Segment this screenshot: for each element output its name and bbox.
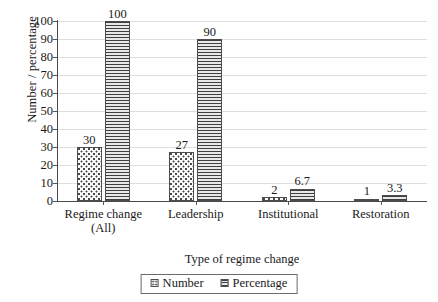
legend-item-percentage[interactable]: Percentage xyxy=(221,277,288,290)
bar-percentage-0: 100 xyxy=(105,21,130,201)
legend-item-label: Percentage xyxy=(233,277,288,290)
y-tick-label: 20 xyxy=(27,159,53,172)
legend-item-number[interactable]: Number xyxy=(151,277,204,290)
y-tick-label: 50 xyxy=(27,105,53,118)
x-category-label-line1: Institutional xyxy=(258,207,318,221)
y-tick-mark xyxy=(53,39,57,40)
striped-swatch-icon xyxy=(221,279,229,287)
y-axis-line xyxy=(57,20,58,201)
bar-number-3: 1 xyxy=(354,199,379,202)
bar-value-label: 1 xyxy=(364,185,370,198)
bar-percentage-3: 3.3 xyxy=(382,195,407,201)
y-tick-label: 10 xyxy=(27,177,53,190)
x-category-label-line1: Regime change xyxy=(65,207,142,221)
y-tick-mark xyxy=(53,165,57,166)
x-tick-mark xyxy=(103,201,104,205)
bar-value-label: 90 xyxy=(204,26,217,39)
y-tick-label: 30 xyxy=(27,141,53,154)
bar-value-label: 3.3 xyxy=(387,182,403,195)
y-tick-label: 100 xyxy=(27,15,53,28)
x-category-label-line1: Restoration xyxy=(352,207,410,221)
dotted-swatch-icon xyxy=(151,279,159,287)
x-tick-mark xyxy=(196,201,197,205)
bar-value-label: 100 xyxy=(108,8,127,21)
x-category-label-line1: Leadership xyxy=(168,207,224,221)
bar-value-label: 30 xyxy=(83,134,96,147)
plot-area: 30100279026.713.3 Regime change(All)Lead… xyxy=(57,21,427,201)
y-tick-label: 40 xyxy=(27,123,53,136)
bar-value-label: 27 xyxy=(176,139,189,152)
bar-value-label: 2 xyxy=(271,184,277,197)
x-tick-mark xyxy=(288,201,289,205)
y-tick-label: 80 xyxy=(27,51,53,64)
chart-legend: NumberPercentage xyxy=(141,274,298,294)
y-tick-mark xyxy=(53,183,57,184)
x-axis-title: Type of regime change xyxy=(57,252,427,267)
bar-percentage-2: 6.7 xyxy=(290,189,315,201)
y-tick-mark xyxy=(53,75,57,76)
x-category-label: Leadership xyxy=(168,207,224,221)
y-tick-label: 0 xyxy=(27,195,53,208)
y-tick-label: 90 xyxy=(27,33,53,46)
y-tick-mark xyxy=(53,93,57,94)
x-tick-mark xyxy=(381,201,382,205)
y-tick-label: 60 xyxy=(27,87,53,100)
x-category-label: Restoration xyxy=(352,207,410,221)
y-tick-mark xyxy=(53,147,57,148)
y-tick-mark xyxy=(53,111,57,112)
x-category-label-line2: (All) xyxy=(65,221,142,235)
y-tick-mark xyxy=(53,201,57,202)
x-category-label: Regime change(All) xyxy=(65,207,142,235)
bar-number-2: 2 xyxy=(262,197,287,201)
y-tick-mark xyxy=(53,57,57,58)
y-tick-mark xyxy=(53,129,57,130)
bar-percentage-1: 90 xyxy=(197,39,222,201)
bar-chart: Number / percentage 01020304050607080901… xyxy=(0,0,438,302)
bar-number-0: 30 xyxy=(77,147,102,201)
bar-number-1: 27 xyxy=(169,152,194,201)
y-tick-label: 70 xyxy=(27,69,53,82)
legend-item-label: Number xyxy=(163,277,204,290)
y-axis-tick-labels: 0102030405060708090100 xyxy=(25,0,53,302)
x-axis-line xyxy=(53,201,427,202)
y-tick-mark xyxy=(53,21,57,22)
bar-value-label: 6.7 xyxy=(294,175,310,188)
x-category-label: Institutional xyxy=(258,207,318,221)
